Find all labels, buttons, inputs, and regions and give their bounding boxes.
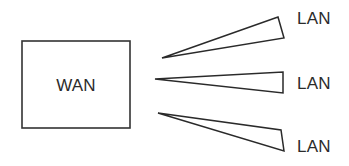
lan-label-3: LAN bbox=[297, 137, 331, 156]
diagram-canvas: WAN LAN LAN LAN bbox=[0, 0, 349, 166]
lan-label-1: LAN bbox=[297, 9, 331, 28]
lan-cone-2[interactable] bbox=[155, 72, 283, 93]
lan-cone-1[interactable] bbox=[162, 17, 284, 58]
lan-cone-3[interactable] bbox=[158, 113, 284, 151]
wan-label: WAN bbox=[56, 76, 96, 95]
network-diagram: WAN LAN LAN LAN bbox=[0, 0, 349, 166]
lan-label-2: LAN bbox=[297, 74, 331, 93]
